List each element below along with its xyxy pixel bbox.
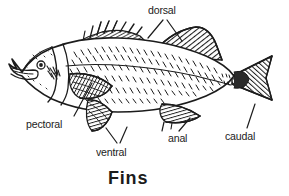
label-caudal: caudal bbox=[225, 130, 255, 142]
caudal-fin-shape bbox=[232, 56, 272, 100]
label-dorsal: dorsal bbox=[148, 4, 176, 16]
fish-illustration bbox=[0, 0, 289, 196]
leader-ventral-left bbox=[106, 128, 117, 143]
leader-ventral-right bbox=[120, 127, 127, 143]
label-ventral: ventral bbox=[96, 146, 126, 158]
diagram-caption: Fins bbox=[108, 168, 148, 189]
label-anal: anal bbox=[168, 132, 187, 144]
fins-diagram: dorsal pectoral ventral anal caudal Fins bbox=[0, 0, 289, 196]
anal-fin-shape bbox=[160, 104, 200, 131]
label-pectoral: pectoral bbox=[26, 118, 62, 130]
leader-dorsal-left bbox=[148, 20, 163, 38]
leader-caudal bbox=[247, 104, 255, 128]
